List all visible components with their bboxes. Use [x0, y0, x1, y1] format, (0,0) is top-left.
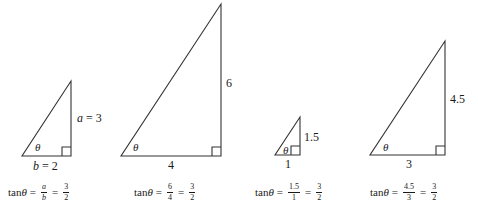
tan-formula-3: tan θ = 1.5 1 = 3 2	[255, 183, 324, 202]
fraction-3-over-2: 3 2	[189, 183, 195, 202]
equals-sign: =	[30, 187, 36, 198]
right-angle-marker-3	[291, 146, 300, 155]
theta-symbol: θ	[147, 187, 152, 198]
opposite-side-label-2: 6	[226, 77, 232, 89]
numerator: 3	[63, 183, 69, 193]
equals-sign: =	[156, 187, 162, 198]
tan-formula-1: tan θ = a b = 3 2	[8, 183, 71, 202]
triangles-figure	[0, 0, 478, 207]
equals-sign: =	[52, 187, 58, 198]
denominator: 2	[64, 193, 68, 202]
tan-label: tan	[255, 187, 268, 198]
right-angle-marker-1	[62, 147, 71, 156]
numerator: 3	[316, 183, 322, 193]
equals-sign: =	[277, 187, 283, 198]
numerator: a	[41, 183, 47, 193]
denominator: 1	[292, 193, 296, 202]
denominator: 2	[432, 193, 436, 202]
fraction-3-over-2: 3 2	[431, 183, 437, 202]
theta-symbol: θ	[21, 187, 26, 198]
fraction-3-over-2: 3 2	[63, 183, 69, 202]
fraction-1.5-over-1: 1.5 1	[288, 183, 300, 202]
adjacent-side-label-4: 3	[406, 158, 412, 170]
tan-formula-2: tan θ = 6 4 = 3 2	[134, 183, 197, 202]
fraction-4.5-over-3: 4.5 3	[403, 183, 415, 202]
tan-label: tan	[370, 187, 383, 198]
adjacent-value: = 2	[39, 159, 58, 173]
equals-sign: =	[420, 187, 426, 198]
fraction-3-over-2: 3 2	[316, 183, 322, 202]
denominator: 4	[168, 193, 172, 202]
adjacent-side-label-1: b = 2	[33, 160, 58, 172]
triangle-1	[22, 81, 71, 156]
angle-theta-label-3: θ	[283, 145, 288, 156]
angle-theta-label-1: θ	[35, 142, 40, 153]
equals-sign: =	[392, 187, 398, 198]
tan-formula-4: tan θ = 4.5 3 = 3 2	[370, 183, 439, 202]
triangle-4	[370, 41, 445, 155]
equals-sign: =	[178, 187, 184, 198]
theta-symbol: θ	[383, 187, 388, 198]
denominator: 2	[190, 193, 194, 202]
fraction-6-over-4: 6 4	[167, 183, 173, 202]
angle-theta-label-2: θ	[133, 142, 138, 153]
denominator: b	[42, 193, 46, 202]
opposite-side-label-1: a = 3	[77, 112, 102, 124]
fraction-a-over-b: a b	[41, 183, 47, 202]
numerator: 3	[189, 183, 195, 193]
angle-theta-label-4: θ	[383, 142, 388, 153]
denominator: 2	[317, 193, 321, 202]
opposite-side-label-3: 1.5	[304, 131, 319, 143]
numerator: 1.5	[288, 183, 300, 193]
right-angle-marker-2	[212, 147, 221, 156]
theta-symbol: θ	[268, 187, 273, 198]
numerator: 4.5	[403, 183, 415, 193]
opposite-side-label-4: 4.5	[450, 93, 465, 105]
right-angle-marker-4	[436, 146, 445, 155]
triangle-2	[121, 4, 221, 156]
numerator: 6	[167, 183, 173, 193]
tan-label: tan	[8, 187, 21, 198]
equals-sign: =	[305, 187, 311, 198]
adjacent-side-label-2: 4	[168, 159, 174, 171]
tan-label: tan	[134, 187, 147, 198]
numerator: 3	[431, 183, 437, 193]
adjacent-side-label-3: 1	[285, 158, 291, 170]
denominator: 3	[407, 193, 411, 202]
opposite-value: = 3	[83, 111, 102, 125]
